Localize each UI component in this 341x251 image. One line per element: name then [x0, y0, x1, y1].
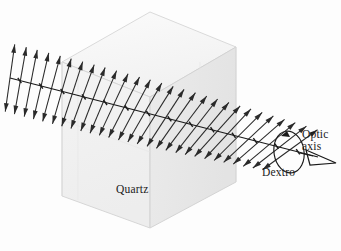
optic-axis-arrowhead — [300, 150, 336, 165]
label-optic-axis-line1: Optic — [302, 128, 329, 140]
quartz-crystal-block — [62, 12, 236, 228]
optical-rotation-figure: Quartz Optic axis Dextro — [0, 0, 341, 251]
label-optic-axis: Optic axis — [302, 128, 329, 152]
label-dextro: Dextro — [262, 166, 295, 178]
figure-canvas — [0, 0, 341, 251]
label-quartz: Quartz — [116, 183, 149, 195]
label-optic-axis-line2: axis — [302, 140, 329, 152]
